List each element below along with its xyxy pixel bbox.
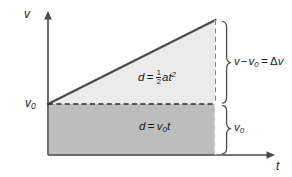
brace-v0 xyxy=(223,106,231,154)
formula-upper-tail: at xyxy=(162,71,172,83)
x-axis-arrowhead xyxy=(267,151,276,158)
y-axis-arrowhead xyxy=(44,11,52,20)
fraction-one-half: 12 xyxy=(156,69,161,86)
delta-symbol: Δ xyxy=(270,55,278,67)
fraction-numerator: 1 xyxy=(156,69,161,77)
v0-span-subscript: 0 xyxy=(240,126,244,135)
velocity-time-diagram: v t v0 d = 12at2 d = v0t v − v0 = Δv v0 xyxy=(0,0,292,177)
x-axis-label: t xyxy=(276,160,279,172)
brace-delta-v xyxy=(223,22,231,104)
fraction-denominator: 2 xyxy=(156,78,161,86)
y-axis-tick-label-v0: v0 xyxy=(25,97,36,111)
formula-upper-exponent: 2 xyxy=(172,70,176,79)
v0-axis-subscript: 0 xyxy=(31,101,36,111)
delta-v-part-c: v xyxy=(278,55,284,67)
y-axis-label: v xyxy=(24,8,30,20)
formula-triangle-area: d = 12at2 xyxy=(138,69,176,86)
formula-lower-tail: t xyxy=(167,120,170,132)
annotation-delta-v: v − v0 = Δv xyxy=(234,56,283,69)
diagram-canvas xyxy=(0,0,292,177)
region-rectangle-v0t xyxy=(48,104,215,155)
delta-v-equals: = xyxy=(261,55,268,67)
annotation-v0-span: v0 xyxy=(234,122,244,135)
formula-rectangle-area: d = v0t xyxy=(139,121,170,134)
